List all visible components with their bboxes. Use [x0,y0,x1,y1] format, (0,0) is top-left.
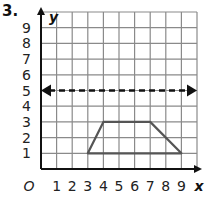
x-tick-label: 9 [177,178,186,194]
y-tick-label: 7 [22,51,31,67]
x-tick-label: 1 [52,178,61,194]
y-tick-label: 6 [22,67,31,83]
x-axis-arrow-icon [194,165,202,173]
origin-label: O [23,178,34,194]
y-axis-arrow-icon [37,7,45,15]
x-tick-label: 3 [83,178,92,194]
coordinate-grid: 123456789123456789Oxy [0,0,207,200]
y-tick-label: 2 [22,130,31,146]
x-tick-label: 6 [130,178,139,194]
y-tick-label: 8 [22,35,31,51]
x-tick-label: 8 [161,178,170,194]
left-arrow-icon [41,85,51,97]
x-axis-label: x [193,178,204,194]
x-tick-label: 7 [146,178,155,194]
x-tick-label: 5 [115,178,124,194]
right-arrow-icon [187,85,197,97]
x-tick-label: 2 [68,178,77,194]
y-tick-label: 1 [22,145,31,161]
y-tick-label: 3 [22,114,31,130]
y-tick-label: 9 [22,20,31,36]
y-tick-label: 5 [22,83,31,99]
y-tick-label: 4 [22,98,31,114]
y-axis-label: y [49,9,59,25]
x-tick-label: 4 [99,178,108,194]
